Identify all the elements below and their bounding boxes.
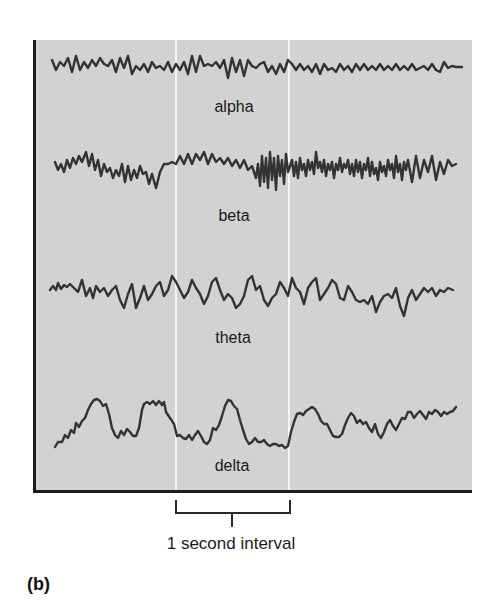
label-delta: delta <box>172 457 292 475</box>
label-theta: theta <box>173 329 293 347</box>
eeg-wave-figure: alpha beta theta delta 1 second interval… <box>0 0 493 615</box>
trace-theta <box>50 276 453 316</box>
left-axis-line <box>33 40 36 493</box>
label-beta: beta <box>174 207 294 225</box>
label-alpha: alpha <box>174 98 294 116</box>
trace-delta <box>55 399 456 448</box>
panel-label: (b) <box>27 574 50 595</box>
interval-bracket-stem <box>231 512 233 527</box>
bottom-axis-line <box>33 490 472 493</box>
interval-label: 1 second interval <box>131 534 331 554</box>
trace-beta <box>55 152 456 190</box>
interval-bracket <box>175 500 291 514</box>
eeg-traces <box>0 0 493 615</box>
trace-alpha <box>52 56 462 78</box>
